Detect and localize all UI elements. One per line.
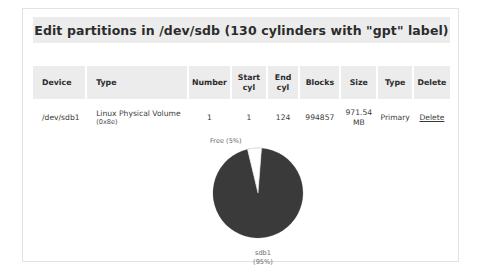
cell-type-code: (0x8e) — [96, 118, 180, 126]
cell-type-name: Linux Physical Volume — [96, 109, 180, 118]
column-header-end-line2: cyl — [277, 83, 289, 92]
pie-graphic — [212, 147, 304, 239]
table-header-row: Device Type Number Start cyl End cyl Blo… — [33, 66, 450, 99]
cell-start-cyl: 1 — [232, 101, 265, 134]
cell-number: 1 — [189, 101, 230, 134]
table-row: /dev/sdb1 Linux Physical Volume (0x8e) 1… — [33, 101, 450, 134]
column-header-type: Type — [87, 66, 187, 99]
column-header-end-cyl: End cyl — [268, 66, 299, 99]
cell-size-unit: MB — [353, 118, 365, 127]
pie-svg — [212, 147, 304, 239]
cell-end-cyl: 124 — [268, 101, 299, 134]
delete-link[interactable]: Delete — [419, 113, 444, 122]
column-header-device: Device — [33, 66, 85, 99]
cell-partition-type: Primary — [378, 101, 411, 134]
column-header-delete: Delete — [414, 66, 450, 99]
column-header-start-line1: Start — [238, 73, 260, 82]
cell-blocks: 994857 — [300, 101, 339, 134]
cell-delete: Delete — [414, 101, 450, 134]
column-header-partition-type: Type — [378, 66, 411, 99]
disk-usage-pie-chart: Free (5%) sdb1 (95%) — [33, 136, 450, 256]
partition-editor-card: Edit partitions in /dev/sdb (130 cylinde… — [22, 8, 459, 262]
pie-label-free: Free (5%) — [210, 137, 242, 146]
column-header-blocks: Blocks — [300, 66, 339, 99]
column-header-end-line1: End — [275, 73, 291, 82]
pie-label-sdb1-line2: (95%) — [253, 258, 273, 266]
column-header-start-line2: cyl — [243, 83, 255, 92]
column-header-size: Size — [341, 66, 376, 99]
cell-size-value: 971.54 — [346, 108, 373, 117]
cell-device: /dev/sdb1 — [33, 101, 85, 134]
page-title: Edit partitions in /dev/sdb (130 cylinde… — [34, 23, 448, 38]
pie-label-sdb1-line1: sdb1 — [255, 249, 271, 257]
column-header-start-cyl: Start cyl — [232, 66, 265, 99]
cell-size: 971.54 MB — [341, 101, 376, 134]
partition-table: Device Type Number Start cyl End cyl Blo… — [33, 66, 450, 134]
pie-label-sdb1: sdb1 (95%) — [233, 249, 293, 266]
cell-type: Linux Physical Volume (0x8e) — [87, 101, 187, 134]
page-title-band: Edit partitions in /dev/sdb (130 cylinde… — [33, 17, 450, 43]
column-header-number: Number — [189, 66, 230, 99]
